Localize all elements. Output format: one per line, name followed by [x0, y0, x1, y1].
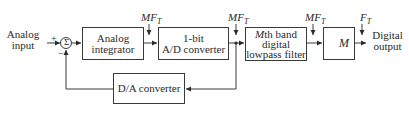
- adc-block: 1-bit A/D converter: [158, 27, 229, 60]
- decimator-block: M: [323, 27, 355, 60]
- analog-input-label: Analog input: [0, 29, 46, 51]
- rate-label-filter: MFT: [305, 12, 325, 27]
- sigma-icon: Σ: [61, 37, 72, 48]
- rate-label-output: FT: [360, 12, 371, 27]
- minus-sign: −: [58, 48, 64, 59]
- digital-output-label: Digital output: [366, 30, 409, 52]
- junction-dot: [234, 41, 237, 44]
- rate-label-adc: MFT: [228, 12, 248, 27]
- dac-block: D/A converter: [113, 73, 185, 104]
- plus-sign: +: [51, 33, 57, 44]
- rate-label-integrator: MFT: [141, 12, 161, 27]
- lowpass-filter-block: Mth band digital lowpass filter: [245, 27, 307, 61]
- analog-integrator-block: Analog integrator: [82, 27, 144, 60]
